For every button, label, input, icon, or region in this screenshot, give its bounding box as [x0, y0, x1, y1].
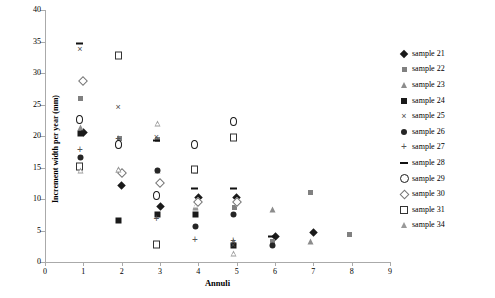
legend-item-sample-25[interactable]: ×sample 25	[398, 108, 493, 124]
x-axis-tick-label: 8	[350, 268, 354, 276]
data-point	[157, 179, 164, 186]
x-axis-tick-label: 6	[273, 268, 277, 276]
marker-diaopen-icon	[399, 189, 409, 199]
marker-plus-icon: +	[401, 144, 408, 151]
x-axis-tick	[275, 262, 276, 266]
data-point	[195, 186, 202, 193]
marker-circfill-icon	[192, 224, 198, 230]
legend-item-sample-29[interactable]: sample 29	[398, 171, 493, 187]
x-axis-tick	[390, 262, 391, 266]
x-axis-tick-label: 7	[311, 268, 315, 276]
data-point	[272, 209, 279, 216]
legend-label: sample 30	[412, 190, 445, 198]
marker-triopen-icon	[192, 203, 198, 209]
data-point	[118, 56, 125, 63]
x-axis-tick	[160, 262, 161, 266]
data-point	[310, 229, 317, 236]
legend-item-sample-27[interactable]: +sample 27	[398, 140, 493, 156]
marker-circfill-icon	[154, 167, 160, 173]
x-axis-title: Annuli	[45, 278, 390, 288]
data-point	[118, 145, 125, 152]
data-point	[272, 234, 279, 241]
data-point	[233, 186, 240, 193]
marker-x-icon: ×	[401, 113, 408, 120]
y-axis-tick-label: 0	[37, 258, 41, 266]
plot-area: 0510152025303540×××××+++++	[45, 10, 390, 262]
x-axis-tick	[198, 262, 199, 266]
marker-triopen-icon	[154, 121, 160, 127]
data-point	[80, 41, 87, 48]
legend-item-sample-24[interactable]: sample 24	[398, 93, 493, 109]
marker-circopen-icon	[230, 117, 237, 126]
data-point: +	[157, 219, 164, 226]
legend-item-sample-34[interactable]: sample 34	[398, 218, 493, 234]
data-point	[118, 182, 125, 189]
legend-label: sample 34	[412, 221, 445, 229]
x-axis-line: 0123456789	[45, 262, 390, 263]
marker-circfill-icon	[269, 242, 275, 248]
marker-trigrey-icon	[401, 82, 407, 88]
legend-label: sample 21	[412, 50, 445, 58]
scatter-chart: Increment width per year (mm) Annuli 012…	[0, 0, 495, 298]
legend-marker	[398, 127, 410, 137]
legend-marker	[398, 220, 410, 230]
data-point	[348, 233, 355, 240]
y-axis-tick-label: 40	[33, 6, 41, 14]
data-point	[195, 214, 202, 221]
data-point	[80, 97, 87, 104]
marker-circfill-icon	[231, 212, 237, 218]
legend-marker	[398, 80, 410, 90]
data-point	[233, 138, 240, 145]
marker-triopen-icon	[77, 168, 83, 174]
marker-sqgrey-icon	[78, 96, 83, 101]
data-point	[80, 133, 87, 140]
legend-item-sample-22[interactable]: sample 22	[398, 62, 493, 78]
legend-item-sample-26[interactable]: sample 26	[398, 124, 493, 140]
data-point	[157, 203, 164, 210]
data-point	[80, 78, 87, 85]
x-axis-tick-label: 2	[120, 268, 124, 276]
marker-sqgrey-icon	[402, 67, 407, 72]
marker-diaopen-icon	[155, 178, 165, 188]
data-point	[195, 206, 202, 213]
marker-circopen-icon	[191, 140, 198, 149]
data-point	[195, 226, 202, 233]
legend-marker: +	[398, 142, 410, 152]
legend-item-sample-21[interactable]: sample 21	[398, 46, 493, 62]
x-axis-tick	[352, 262, 353, 266]
data-point	[272, 245, 279, 252]
marker-circfill-icon	[401, 129, 407, 135]
legend-item-sample-31[interactable]: sample 31	[398, 202, 493, 218]
marker-plus-icon: +	[230, 237, 237, 244]
marker-dash-icon	[230, 188, 237, 190]
legend-label: sample 26	[412, 128, 445, 136]
legend-label: sample 24	[412, 97, 445, 105]
marker-sqblack-icon	[116, 218, 122, 224]
marker-trigrey-icon	[307, 238, 313, 244]
marker-circopen-icon	[76, 115, 83, 124]
y-axis-tick-label: 5	[37, 227, 41, 235]
legend-item-sample-28[interactable]: sample 28	[398, 155, 493, 171]
data-point: ×	[80, 49, 87, 56]
y-axis-tick-label: 15	[33, 164, 41, 172]
marker-trigrey-icon	[269, 206, 275, 212]
y-axis-tick-label: 20	[33, 132, 41, 140]
x-axis-tick-label: 5	[235, 268, 239, 276]
legend-item-sample-23[interactable]: sample 23	[398, 77, 493, 93]
marker-circopen-icon	[400, 174, 409, 183]
legend-label: sample 25	[412, 112, 445, 120]
legend-marker	[398, 174, 410, 184]
legend-label: sample 27	[412, 143, 445, 151]
marker-triopen-icon	[401, 222, 407, 228]
legend-label: sample 31	[412, 206, 445, 214]
marker-dash-icon	[268, 235, 275, 237]
marker-dash-icon	[76, 43, 83, 45]
data-point: +	[80, 150, 87, 157]
marker-circopen-icon	[115, 140, 122, 149]
legend-label: sample 28	[412, 159, 445, 167]
marker-sqopen-icon	[191, 166, 198, 174]
legend-label: sample 29	[412, 175, 445, 183]
legend-item-sample-30[interactable]: sample 30	[398, 186, 493, 202]
data-point	[195, 170, 202, 177]
marker-plus-icon: +	[76, 147, 83, 154]
